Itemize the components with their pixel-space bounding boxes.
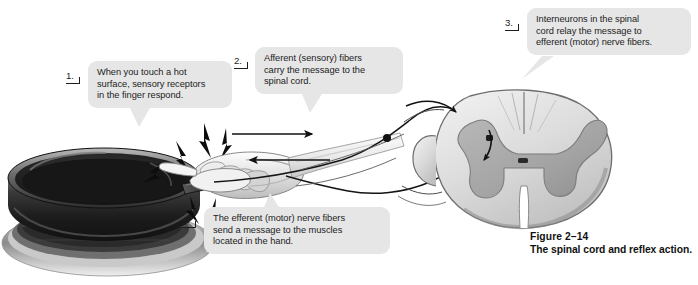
- dorsal-root-ganglion: [383, 134, 391, 142]
- callout-3-line-1: Interneurons in the spinal: [536, 14, 682, 26]
- callout-1-line-2: surface, sensory receptors: [97, 79, 223, 91]
- callout-2-line-2: carry the message to the: [264, 65, 394, 77]
- callout-4-marker: 4.: [182, 215, 197, 228]
- callout-3-marker: 3.: [505, 18, 520, 31]
- callout-3-tail: [520, 56, 554, 80]
- callout-1-line-1: When you touch a hot: [97, 67, 223, 79]
- callout-4-line-2: send a message to the muscles: [213, 225, 381, 237]
- figure-title: The spinal cord and reflex action.: [530, 243, 695, 257]
- callout-1-bubble: When you touch a hot surface, sensory re…: [88, 61, 232, 108]
- marker-tick: [79, 77, 80, 84]
- marker-tick: [195, 221, 196, 228]
- callout-2-tail: [300, 94, 326, 114]
- callout-4-bubble: The efferent (motor) nerve fibers send a…: [204, 207, 390, 254]
- callout-3-bubble: Interneurons in the spinal cord relay th…: [527, 8, 691, 55]
- callout-3-line-2: cord relay the message to: [536, 26, 682, 38]
- callout-2-line-1: Afferent (sensory) fibers: [264, 53, 394, 65]
- figure-spinal-cord-reflex: 1. When you touch a hot surface, sensory…: [0, 0, 698, 285]
- marker-underline: [182, 227, 195, 228]
- marker-tick: [518, 24, 519, 31]
- figure-number: Figure 2–14: [530, 230, 695, 243]
- callout-1-tail: [128, 108, 154, 128]
- callout-1-line-3: in the finger respond.: [97, 90, 223, 102]
- callout-4-line-3: located in the hand.: [213, 236, 381, 248]
- callout-3-line-3: efferent (motor) nerve fibers.: [536, 37, 682, 49]
- spinal-cord-cross-section: [406, 90, 612, 228]
- callout-4-line-1: The efferent (motor) nerve fibers: [213, 213, 381, 225]
- marker-underline: [234, 68, 247, 69]
- marker-underline: [505, 30, 518, 31]
- callout-2-marker: 2.: [234, 56, 249, 69]
- callout-2-line-3: spinal cord.: [264, 76, 394, 88]
- callout-2-bubble: Afferent (sensory) fibers carry the mess…: [255, 47, 403, 94]
- marker-underline: [66, 83, 79, 84]
- figure-caption: Figure 2–14 The spinal cord and reflex a…: [530, 230, 695, 257]
- marker-tick: [247, 62, 248, 69]
- callout-1-marker: 1.: [66, 71, 81, 84]
